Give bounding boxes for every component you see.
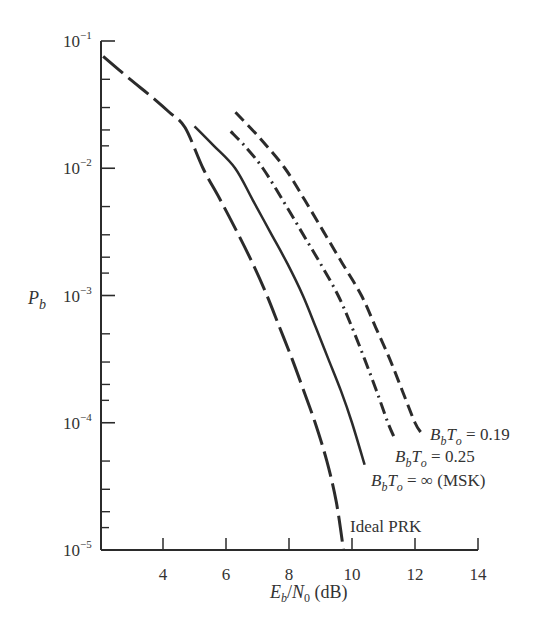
- y-tick-label: 10−1: [63, 29, 92, 51]
- y-axis-ticks: 10−110−210−310−410−5: [63, 29, 115, 560]
- curve-annotation: Ideal PRK: [350, 517, 422, 536]
- curve-annotation: BbTo = 0.19: [430, 425, 510, 448]
- x-tick-label: 12: [407, 565, 424, 584]
- curve-annotation: BbTo = ∞ (MSK): [371, 471, 486, 494]
- x-tick-label: 6: [222, 565, 231, 584]
- y-tick-label: 10−3: [63, 284, 92, 306]
- x-axis-label: Eb/N0 (dB): [269, 582, 348, 605]
- y-tick-label: 10−5: [63, 538, 92, 560]
- y-tick-label: 10−2: [63, 156, 92, 178]
- y-tick-label: 10−4: [63, 411, 92, 433]
- x-axis-ticks: 468101214: [159, 538, 487, 584]
- x-tick-label: 14: [470, 565, 488, 584]
- chart: 10−110−210−310−410−5 468101214 BbTo = 0.…: [0, 0, 543, 634]
- x-tick-label: 4: [159, 565, 168, 584]
- y-axis-label: Pb: [27, 288, 46, 312]
- curve-b-bt-o-0-19: [235, 112, 421, 433]
- curve-annotation: BbTo = 0.25: [395, 447, 475, 470]
- curve-annotations: BbTo = 0.19BbTo = 0.25BbTo = ∞ (MSK)Idea…: [350, 425, 510, 536]
- curve-b-bt-o-0-25: [231, 131, 395, 438]
